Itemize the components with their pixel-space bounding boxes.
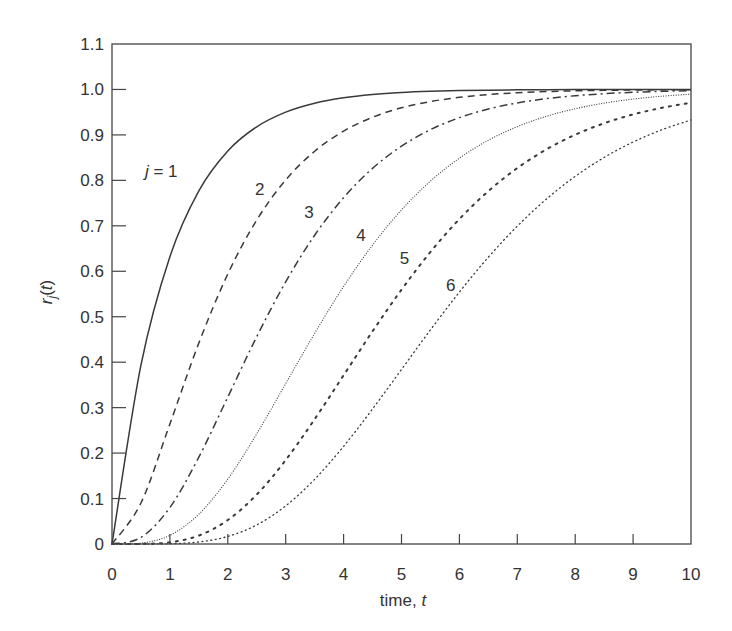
curve-label: j = 1 [143, 162, 178, 181]
curve-j4 [112, 94, 691, 544]
curve-j3 [112, 91, 691, 544]
x-tick-label: 0 [107, 565, 116, 584]
y-tick-label: 1.1 [80, 35, 104, 54]
y-tick-label: 0.5 [80, 308, 104, 327]
x-tick-label: 1 [165, 565, 174, 584]
x-tick-label: 3 [281, 565, 290, 584]
y-tick-label: 0.9 [80, 126, 104, 145]
y-tick-label: 0.4 [80, 353, 104, 372]
x-tick-label: 4 [339, 565, 348, 584]
curve-j6 [112, 120, 691, 544]
y-tick-label: 0.2 [80, 444, 104, 463]
y-tick-label: 0.7 [80, 217, 104, 236]
x-tick-label: 2 [223, 565, 232, 584]
x-axis-ticks: 012345678910 [107, 534, 700, 584]
axes-layer [112, 44, 691, 544]
x-tick-label: 10 [682, 565, 701, 584]
curves-layer [112, 89, 691, 544]
curve-labels: j = 123456 [143, 162, 456, 295]
y-tick-label: 0.8 [80, 171, 104, 190]
x-tick-label: 8 [570, 565, 579, 584]
curve-label: 6 [446, 276, 455, 295]
y-tick-label: 0.6 [80, 262, 104, 281]
y-tick-label: 0 [95, 535, 104, 554]
y-axis-title: rj(t) [37, 280, 59, 304]
y-axis-title-text: rj(t) [37, 280, 59, 304]
chart: 012345678910 00.10.20.30.40.50.60.70.80.… [0, 0, 732, 631]
y-axis-ticks: 00.10.20.30.40.50.60.70.80.91.01.1 [80, 35, 126, 554]
plot-frame [112, 44, 691, 544]
x-tick-label: 5 [397, 565, 406, 584]
y-tick-label: 0.3 [80, 399, 104, 418]
y-tick-label: 0.1 [80, 490, 104, 509]
curve-label: 4 [356, 226, 365, 245]
x-axis-title: time, t [380, 591, 428, 610]
curve-j5 [112, 103, 691, 544]
x-tick-label: 9 [628, 565, 637, 584]
y-tick-label: 1.0 [80, 80, 104, 99]
x-tick-label: 7 [513, 565, 522, 584]
curve-label: 2 [255, 180, 264, 199]
curve-label: 5 [400, 249, 409, 268]
curve-label: 3 [304, 203, 313, 222]
x-tick-label: 6 [455, 565, 464, 584]
